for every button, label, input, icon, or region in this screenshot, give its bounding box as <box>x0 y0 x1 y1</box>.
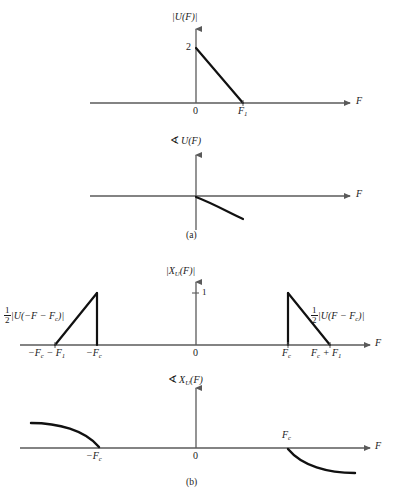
panel-b-xtick-neg-Fc-minus-F1: −Fc − F1 <box>28 348 65 359</box>
panel-b-phase-left-curve <box>31 423 99 447</box>
panel-b-magnitude-title: |XU(F)| <box>166 266 195 277</box>
panel-a-magnitude-title-text: |U(F)| <box>172 11 198 22</box>
panel-a-magnitude-ytick-2: 2 <box>186 42 191 52</box>
right-fraction-one-half: 12 <box>311 306 318 325</box>
panel-a-magnitude-xtick-F1: F1 <box>238 106 248 117</box>
panel-b-phase-xtick-0: 0 <box>193 451 198 461</box>
panel-a-magnitude-axes <box>90 29 350 103</box>
panel-b-xtick-neg-Fc: −Fc <box>86 348 102 359</box>
panel-b-xtick-Fc-plus-F1: Fc + F1 <box>311 348 341 359</box>
panel-b-phase-xtick-Fc: Fc <box>282 430 291 441</box>
angle-glyph: ∢ <box>168 373 177 385</box>
panel-a-magnitude-axis-label-F: F <box>356 96 362 106</box>
panel-a-phase-axis-label-F: F <box>356 189 362 199</box>
panel-b-magnitude-axis-label-F: F <box>375 338 381 348</box>
panel-a-phase-title-text: ∢ U(F) <box>170 135 201 146</box>
figure-root: |U(F)| 2 0 F1 F ∢ U(F) F (a) |XU(F)| 1 1… <box>0 0 395 497</box>
panel-b-right-annotation: 12|U(F − Fc)| <box>311 306 364 325</box>
panel-b-phase-title: ∢ XU(F) <box>168 374 203 386</box>
panel-a-phase-curve <box>196 197 243 219</box>
right-annotation-expr: |U(F − Fc)| <box>318 310 364 321</box>
caption-b: (b) <box>186 478 197 488</box>
figure-canvas <box>0 0 395 497</box>
caption-a: (a) <box>186 231 197 241</box>
left-annotation-expr: |U(−F − Fc)| <box>11 310 64 321</box>
panel-a-magnitude-title: |U(F)| <box>172 12 198 22</box>
panel-b-phase-right-curve <box>288 449 355 473</box>
panel-b-xtick-0: 0 <box>193 348 198 358</box>
panel-b-left-annotation: 12|U(−F − Fc)| <box>4 306 64 325</box>
angle-glyph: ∢ <box>170 134 179 146</box>
panel-a-magnitude-curve <box>196 48 243 103</box>
panel-a-magnitude-xtick-0: 0 <box>193 106 198 116</box>
panel-a-phase-axes <box>90 155 350 230</box>
panel-b-phase-axes <box>20 388 370 448</box>
panel-b-magnitude-title-text: |XU(F)| <box>166 265 195 276</box>
panel-b-magnitude-ytick-1: 1 <box>202 288 207 297</box>
panel-b-phase-axis-label-F: F <box>375 441 381 451</box>
panel-a-phase-title: ∢ U(F) <box>170 135 201 146</box>
panel-b-xtick-Fc: Fc <box>282 348 291 359</box>
panel-b-phase-xtick-neg-Fc: −Fc <box>86 451 102 462</box>
left-fraction-one-half: 12 <box>4 306 11 325</box>
panel-b-phase-title-text: ∢ XU(F) <box>168 374 203 385</box>
